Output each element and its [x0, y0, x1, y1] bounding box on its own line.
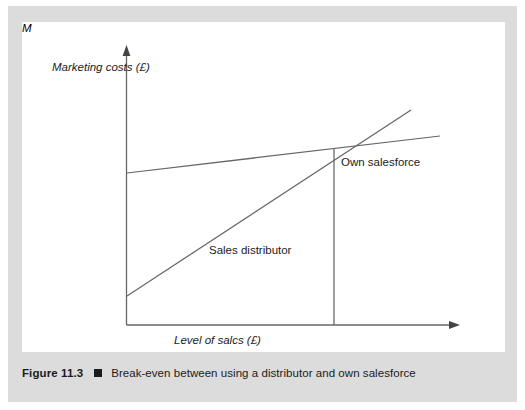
x-axis-label-text: Level of salcs (£) [174, 334, 261, 346]
chart-panel: Marketing costs (£) Level of salcs (£) M… [22, 22, 505, 352]
figure-caption-text: Break-even between using a distributor a… [111, 367, 416, 379]
y-axis-label: Marketing costs (£) [52, 60, 150, 74]
y-axis [123, 45, 131, 325]
figure-caption: Figure 11.3 Break-even between using a d… [22, 360, 505, 386]
black-square-bullet-icon [94, 369, 102, 377]
y-axis-arrowhead-icon [123, 45, 131, 56]
figure-block: Marketing costs (£) Level of salcs (£) M… [0, 0, 525, 410]
y-axis-label-text: Marketing costs (£) [52, 61, 150, 73]
figure-caption-number: Figure 11.3 [22, 367, 83, 379]
series-label-sales-distributor: Sales distributor [209, 244, 291, 256]
x-axis [127, 321, 461, 329]
x-axis-label: Level of salcs (£) [174, 333, 261, 347]
series-line-sales-distributor [127, 110, 411, 296]
series-label-own-salesforce: Own salesforce [341, 156, 420, 168]
x-axis-arrowhead-icon [449, 321, 460, 329]
